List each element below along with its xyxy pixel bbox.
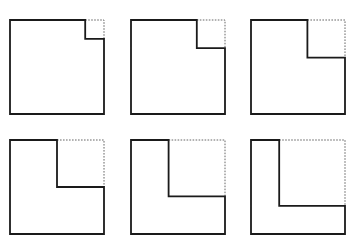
removed-corner-outline (307, 20, 345, 58)
notched-square-outline (251, 20, 345, 114)
panel-3 (251, 20, 345, 114)
removed-corner-outline (169, 140, 225, 196)
panel-6 (251, 140, 345, 234)
panel-5 (131, 140, 225, 234)
notched-square-outline (251, 140, 345, 234)
panel-4 (10, 140, 104, 234)
panel-1 (10, 20, 104, 114)
notched-square-outline (131, 20, 225, 114)
panels-group (10, 20, 345, 234)
removed-corner-outline (197, 20, 225, 48)
removed-corner-outline (279, 140, 345, 206)
notched-square-outline (10, 140, 104, 234)
notched-squares-figure (0, 0, 358, 236)
removed-corner-outline (57, 140, 104, 187)
panel-2 (131, 20, 225, 114)
notched-square-outline (10, 20, 104, 114)
notched-square-outline (131, 140, 225, 234)
removed-corner-outline (85, 20, 104, 39)
